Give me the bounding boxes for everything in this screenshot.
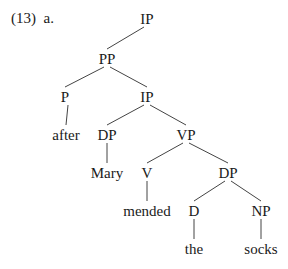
node-dp-subject: DP [97, 128, 116, 143]
leaf-the: the [185, 242, 203, 257]
tree-edge [107, 105, 144, 125]
node-p: P [61, 90, 69, 105]
tree-edge [66, 105, 68, 125]
tree-edges [0, 0, 288, 269]
tree-edge [65, 67, 104, 87]
tree-edge [110, 67, 147, 87]
leaf-socks: socks [244, 242, 277, 257]
node-np: NP [251, 204, 270, 219]
node-d: D [189, 204, 200, 219]
leaf-mary: Mary [91, 166, 124, 181]
leaf-after: after [52, 128, 79, 143]
tree-edge [194, 181, 225, 201]
tree-edge [150, 105, 186, 125]
tree-edge [107, 27, 144, 49]
node-v: V [142, 166, 153, 181]
node-ip-root: IP [140, 12, 153, 27]
node-pp: PP [99, 52, 116, 67]
node-dp-object: DP [218, 166, 237, 181]
node-vp: VP [176, 128, 195, 143]
node-ip-embedded: IP [140, 90, 153, 105]
tree-edge [189, 143, 228, 163]
tree-edge [147, 143, 183, 163]
leaf-mended: mended [123, 204, 170, 219]
tree-edge [231, 181, 261, 201]
